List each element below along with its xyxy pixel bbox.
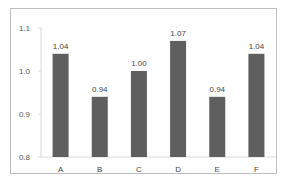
value-label: 1.04 [53,42,69,51]
y-ticks: 0.80.91.01.1 [19,24,41,162]
value-label: 1.00 [131,59,147,68]
value-label: 0.94 [92,85,108,94]
bar-chart: 0.80.91.01.1 1.04A0.94B1.00C1.07D0.94E1.… [0,0,288,184]
y-tick-label: 0.9 [19,110,31,119]
x-tick-label: E [215,165,220,174]
x-tick-label: A [58,165,64,174]
value-label: 1.04 [249,42,265,51]
value-label: 0.94 [209,85,225,94]
bar-d [170,41,186,157]
bar-c [131,71,147,157]
x-tick-label: B [97,165,102,174]
y-tick-label: 1.0 [19,67,31,76]
bar-e [209,97,225,157]
bars: 1.04A0.94B1.00C1.07D0.94E1.04F [53,29,265,174]
x-tick-label: F [254,165,259,174]
bar-b [92,97,108,157]
value-label: 1.07 [170,29,186,38]
x-tick-label: C [136,165,142,174]
y-tick-label: 0.8 [19,153,31,162]
x-tick-label: D [175,165,181,174]
bar-f [248,54,264,157]
y-tick-label: 1.1 [19,24,31,33]
bar-a [53,54,69,157]
